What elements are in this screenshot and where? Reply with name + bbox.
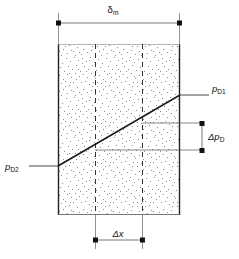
- delta-m-terminator-left: [56, 21, 61, 26]
- delta-m-terminator-right: [177, 21, 182, 26]
- stippled-element-body: [58, 44, 180, 215]
- label-delta-m: δm: [108, 4, 119, 16]
- delta-x-terminator-left: [93, 238, 98, 243]
- diagram-canvas: δm Δx ΔpD pD1 pD2: [0, 0, 239, 259]
- label-delta-pd: ΔpD: [207, 131, 225, 143]
- label-pd2: pD2: [4, 161, 19, 173]
- label-delta-x: Δx: [111, 228, 124, 239]
- delta-pd-terminator-bottom: [200, 148, 205, 153]
- label-pd1: pD1: [211, 83, 226, 95]
- delta-x-terminator-right: [140, 238, 145, 243]
- delta-pd-terminator-top: [200, 121, 205, 126]
- pressure-diagram-figure: δm Δx ΔpD pD1 pD2: [0, 0, 239, 259]
